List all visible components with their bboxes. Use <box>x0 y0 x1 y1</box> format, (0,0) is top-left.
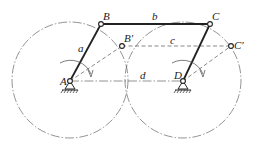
label-c-point: C <box>212 10 220 22</box>
four-bar-linkage-diagram: A B B′ C C′ D a b c d <box>0 0 257 149</box>
joint-c-prime <box>229 44 234 49</box>
joint-b <box>99 22 104 27</box>
label-link-a: a <box>78 42 84 54</box>
link-rocker-alt <box>183 46 231 81</box>
joint-c <box>208 22 213 27</box>
label-link-d: d <box>140 69 146 81</box>
label-d-point: D <box>173 69 182 81</box>
label-b-prime-point: B′ <box>124 32 134 44</box>
link-c-rocker <box>183 24 210 81</box>
label-link-c: c <box>170 34 175 46</box>
link-a <box>70 24 101 81</box>
label-link-b: b <box>152 10 158 22</box>
label-a-point: A <box>59 75 67 87</box>
joint-b-prime <box>120 44 125 49</box>
joint-a <box>68 79 73 84</box>
label-c-prime-point: C′ <box>234 39 244 51</box>
label-b-point: B <box>103 10 110 22</box>
